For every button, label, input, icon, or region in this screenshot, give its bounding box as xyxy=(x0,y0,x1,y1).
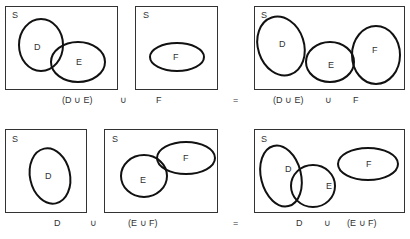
set-d-label: D xyxy=(34,42,41,52)
caption-f: F xyxy=(156,95,162,105)
universe-label: S xyxy=(261,10,267,20)
caption-d-union-e: (D ∪ E) xyxy=(62,95,93,105)
union-operator: ∪ xyxy=(120,95,127,105)
set-f-label: F xyxy=(372,45,378,55)
universe-label: S xyxy=(12,10,18,20)
set-d-label: D xyxy=(279,39,286,49)
set-e-label: E xyxy=(328,60,334,70)
union-operator: ∪ xyxy=(324,218,331,228)
universe-label: S xyxy=(112,134,118,144)
caption-d-union-e: (D ∪ E) xyxy=(273,95,304,105)
caption-d: D xyxy=(296,218,303,228)
universe-label: S xyxy=(261,134,267,144)
union-operator: ∪ xyxy=(325,95,332,105)
set-d-label: D xyxy=(285,164,292,174)
set-e-label: E xyxy=(326,181,332,191)
bottom-panel-e-union-f: S E F xyxy=(105,130,218,213)
set-d-ellipse xyxy=(19,19,63,71)
set-f-label: F xyxy=(183,153,189,163)
top-panel-result: S D E F xyxy=(250,7,405,90)
caption-d: D xyxy=(54,218,61,228)
bottom-panel-d: S D xyxy=(6,130,87,213)
set-f-label: F xyxy=(366,159,372,169)
set-e-label: E xyxy=(140,175,146,185)
associativity-of-union-diagram: S D E (D ∪ E) ∪ S F F = S D E F (D ∪ E) … xyxy=(0,0,410,239)
universe-label: S xyxy=(12,134,18,144)
caption-e-union-f: (E ∪ F) xyxy=(347,218,377,228)
set-e-label: E xyxy=(76,57,82,67)
universe-label: S xyxy=(143,10,149,20)
universe-box xyxy=(255,7,405,90)
equals-sign: = xyxy=(233,95,238,105)
set-d-label: D xyxy=(45,171,52,181)
bottom-panel-result: S D E F xyxy=(254,130,404,213)
top-panel-d-union-e: S D E xyxy=(6,7,118,90)
caption-e-union-f: (E ∪ F) xyxy=(128,218,158,228)
set-d-ellipse xyxy=(254,141,308,211)
caption-f: F xyxy=(353,95,359,105)
top-panel-f: S F xyxy=(136,7,218,90)
union-operator: ∪ xyxy=(90,218,97,228)
equals-sign: = xyxy=(233,218,238,228)
set-f-ellipse xyxy=(352,26,400,84)
set-f-label: F xyxy=(173,52,179,62)
